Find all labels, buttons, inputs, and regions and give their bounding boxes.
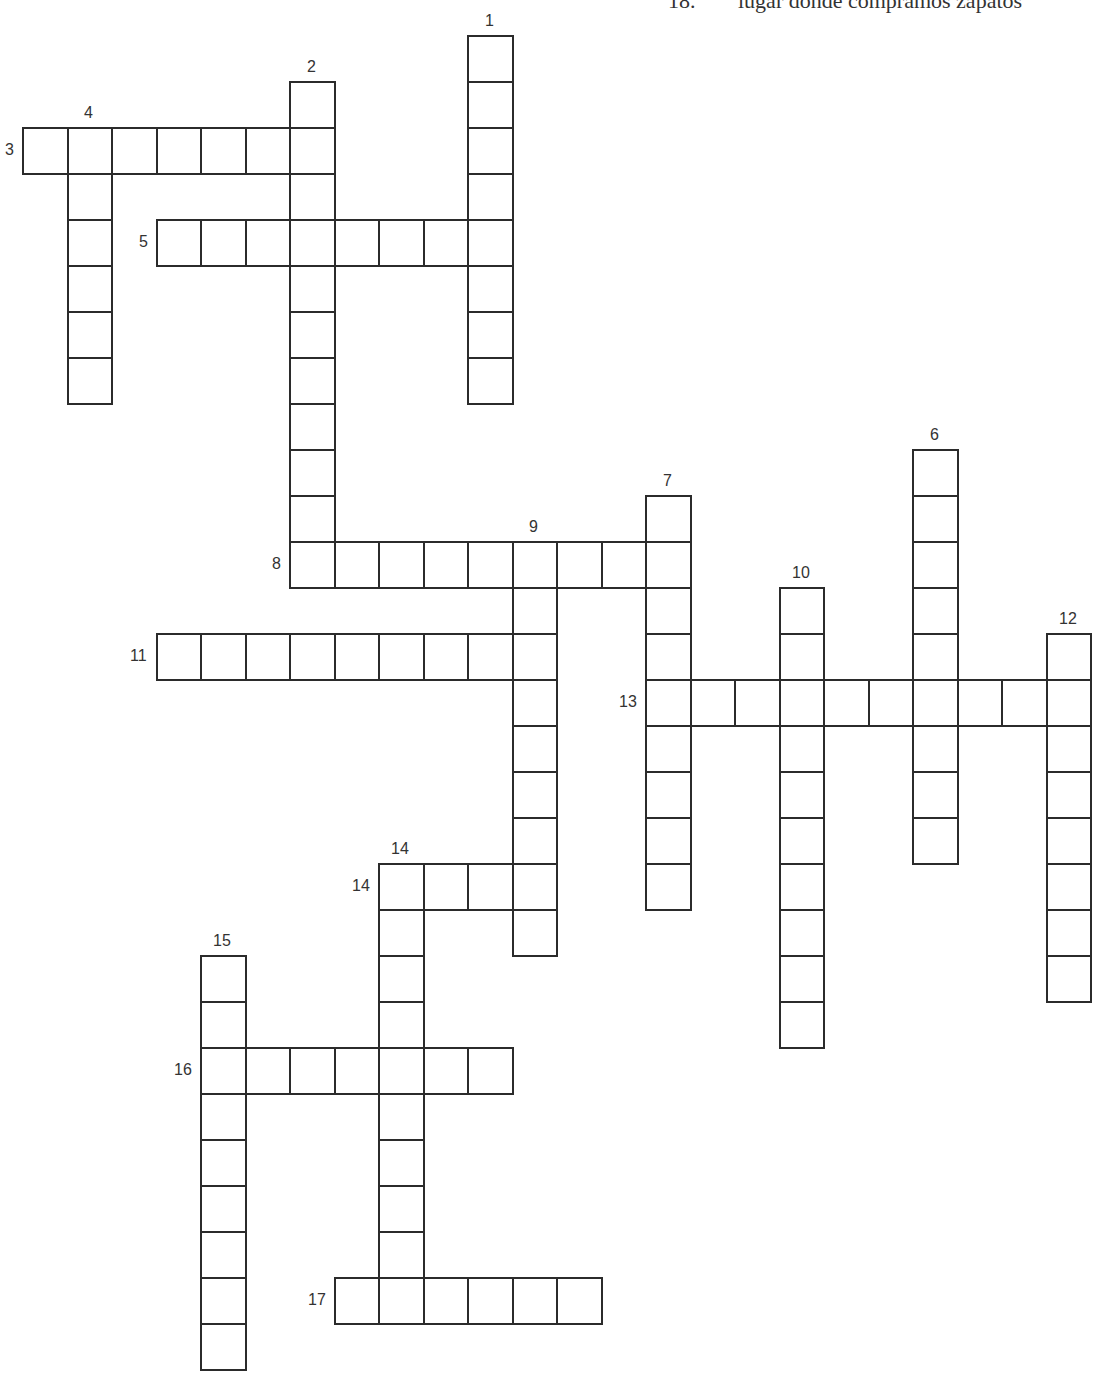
cell-input[interactable]	[291, 175, 334, 219]
cell-input[interactable]	[380, 543, 423, 587]
cell-input[interactable]	[514, 911, 556, 955]
cell-input[interactable]	[1048, 681, 1090, 725]
crossword-cell[interactable]	[467, 265, 514, 313]
crossword-cell[interactable]	[957, 679, 1003, 727]
cell-input[interactable]	[202, 1233, 245, 1277]
crossword-cell[interactable]	[200, 219, 247, 267]
cell-input[interactable]	[514, 543, 556, 587]
cell-input[interactable]	[202, 1095, 245, 1139]
cell-input[interactable]	[469, 37, 512, 81]
crossword-cell[interactable]	[289, 495, 336, 543]
crossword-cell[interactable]	[912, 587, 959, 635]
crossword-cell[interactable]	[779, 1001, 825, 1049]
crossword-cell[interactable]	[378, 541, 425, 589]
cell-input[interactable]	[781, 681, 823, 725]
cell-input[interactable]	[469, 543, 512, 587]
crossword-cell[interactable]	[378, 863, 425, 911]
cell-input[interactable]	[558, 543, 601, 587]
crossword-cell[interactable]	[467, 35, 514, 83]
cell-input[interactable]	[1048, 957, 1090, 1001]
crossword-cell[interactable]	[512, 587, 558, 635]
crossword-cell[interactable]	[200, 1277, 247, 1325]
crossword-cell[interactable]	[779, 725, 825, 773]
cell-input[interactable]	[1048, 865, 1090, 909]
crossword-cell[interactable]	[912, 495, 959, 543]
crossword-cell[interactable]	[200, 1047, 247, 1095]
crossword-cell[interactable]	[1046, 909, 1092, 957]
cell-input[interactable]	[202, 129, 245, 173]
cell-input[interactable]	[603, 543, 645, 587]
crossword-cell[interactable]	[378, 219, 425, 267]
cell-input[interactable]	[469, 1049, 512, 1093]
crossword-cell[interactable]	[1046, 725, 1092, 773]
cell-input[interactable]	[158, 635, 200, 679]
cell-input[interactable]	[69, 221, 111, 265]
crossword-cell[interactable]	[200, 1323, 247, 1371]
cell-input[interactable]	[69, 129, 111, 173]
cell-input[interactable]	[781, 1003, 823, 1047]
cell-input[interactable]	[781, 773, 823, 817]
crossword-cell[interactable]	[556, 1277, 603, 1325]
crossword-cell[interactable]	[156, 633, 202, 681]
crossword-cell[interactable]	[645, 541, 692, 589]
crossword-cell[interactable]	[1046, 679, 1092, 727]
cell-input[interactable]	[291, 359, 334, 403]
crossword-cell[interactable]	[512, 863, 558, 911]
crossword-cell[interactable]	[779, 587, 825, 635]
crossword-cell[interactable]	[289, 449, 336, 497]
crossword-cell[interactable]	[378, 633, 425, 681]
cell-input[interactable]	[425, 543, 467, 587]
cell-input[interactable]	[380, 1049, 423, 1093]
crossword-cell[interactable]	[334, 1047, 380, 1095]
cell-input[interactable]	[914, 773, 957, 817]
crossword-cell[interactable]	[334, 219, 380, 267]
cell-input[interactable]	[1003, 681, 1046, 725]
crossword-cell[interactable]	[289, 81, 336, 129]
crossword-cell[interactable]	[289, 311, 336, 359]
cell-input[interactable]	[514, 865, 556, 909]
crossword-cell[interactable]	[289, 633, 336, 681]
cell-input[interactable]	[825, 681, 868, 725]
crossword-cell[interactable]	[423, 633, 469, 681]
crossword-cell[interactable]	[378, 909, 425, 957]
cell-input[interactable]	[380, 911, 423, 955]
crossword-cell[interactable]	[556, 541, 603, 589]
cell-input[interactable]	[781, 865, 823, 909]
cell-input[interactable]	[914, 635, 957, 679]
crossword-cell[interactable]	[645, 771, 692, 819]
cell-input[interactable]	[469, 1279, 512, 1323]
crossword-cell[interactable]	[1046, 771, 1092, 819]
crossword-cell[interactable]	[645, 633, 692, 681]
cell-input[interactable]	[202, 1325, 245, 1369]
crossword-cell[interactable]	[156, 219, 202, 267]
crossword-cell[interactable]	[423, 863, 469, 911]
crossword-cell[interactable]	[1046, 955, 1092, 1003]
crossword-cell[interactable]	[601, 541, 647, 589]
cell-input[interactable]	[469, 83, 512, 127]
crossword-cell[interactable]	[779, 817, 825, 865]
crossword-cell[interactable]	[512, 771, 558, 819]
crossword-cell[interactable]	[378, 1185, 425, 1233]
cell-input[interactable]	[469, 359, 512, 403]
crossword-cell[interactable]	[690, 679, 736, 727]
cell-input[interactable]	[247, 1049, 289, 1093]
crossword-cell[interactable]	[334, 633, 380, 681]
crossword-cell[interactable]	[156, 127, 202, 175]
cell-input[interactable]	[469, 635, 512, 679]
cell-input[interactable]	[914, 543, 957, 587]
crossword-cell[interactable]	[645, 817, 692, 865]
crossword-cell[interactable]	[467, 219, 514, 267]
crossword-cell[interactable]	[467, 541, 514, 589]
cell-input[interactable]	[469, 267, 512, 311]
cell-input[interactable]	[469, 221, 512, 265]
cell-input[interactable]	[647, 497, 690, 541]
crossword-cell[interactable]	[467, 633, 514, 681]
crossword-cell[interactable]	[200, 955, 247, 1003]
crossword-cell[interactable]	[423, 1047, 469, 1095]
crossword-cell[interactable]	[467, 1047, 514, 1095]
cell-input[interactable]	[202, 635, 245, 679]
crossword-cell[interactable]	[200, 1185, 247, 1233]
crossword-cell[interactable]	[645, 495, 692, 543]
cell-input[interactable]	[380, 221, 423, 265]
cell-input[interactable]	[781, 589, 823, 633]
